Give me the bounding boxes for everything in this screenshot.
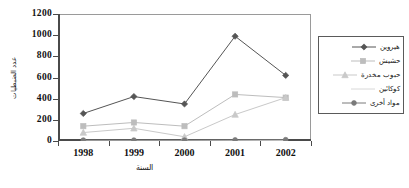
data-point-marker	[80, 110, 86, 116]
legend-label-4: كوكائين	[379, 86, 400, 93]
data-point-marker	[81, 124, 86, 129]
data-point-marker	[182, 124, 187, 129]
data-point-marker	[233, 92, 238, 97]
x-tick-mark	[159, 141, 160, 146]
data-point-marker	[132, 138, 137, 141]
legend-item-1[interactable]: هيروين	[322, 40, 400, 54]
legend-key-5	[341, 98, 367, 108]
y-tick-label: 1000	[0, 30, 52, 40]
y-tick-label: 600	[0, 73, 52, 83]
legend-item-2[interactable]: حشيش	[322, 54, 400, 68]
y-tick-label: 800	[0, 51, 52, 61]
series-line	[83, 94, 285, 126]
data-point-marker	[131, 120, 136, 125]
x-tick-mark	[58, 141, 59, 146]
data-point-marker	[361, 44, 367, 50]
x-axis-title: السنة	[0, 163, 409, 172]
legend: هيروينحشيشحبوب مخدرةكوكائينمواد أخرى	[318, 36, 404, 114]
data-point-marker	[233, 138, 238, 141]
data-point-marker	[283, 137, 288, 141]
legend-label-3: حبوب مخدرة	[361, 72, 400, 79]
chart-root: 020040060080010001200 199819992000200120…	[0, 0, 409, 188]
x-tick-label: 1998	[73, 148, 93, 158]
x-tick-label: 1999	[124, 148, 144, 158]
data-point-marker	[131, 93, 137, 99]
legend-key-1	[351, 42, 377, 52]
legend-item-3[interactable]: حبوب مخدرة	[322, 68, 400, 82]
data-point-marker	[182, 138, 187, 141]
legend-key-2	[350, 56, 376, 66]
x-tick-mark	[210, 141, 211, 146]
legend-key-3	[332, 70, 358, 80]
y-tick-label: 1200	[0, 9, 52, 19]
legend-label-5: مواد أخرى	[370, 100, 400, 107]
data-point-marker	[81, 138, 86, 141]
x-tick-label: 2002	[276, 148, 296, 158]
x-axis-title-text: السنة	[136, 163, 153, 172]
x-tick-label: 2001	[225, 148, 245, 158]
data-point-marker	[352, 101, 357, 106]
x-tick-mark	[260, 141, 261, 146]
series-1	[80, 33, 289, 116]
x-tick-mark	[109, 141, 110, 146]
series-canvas	[58, 14, 311, 141]
data-point-marker	[360, 58, 365, 63]
x-tick-mark	[311, 141, 312, 146]
series-2	[81, 92, 289, 129]
legend-label-1: هيروين	[380, 44, 400, 51]
y-tick-label: 400	[0, 94, 52, 104]
legend-item-4[interactable]: كوكائين	[322, 82, 400, 96]
legend-label-2: حشيش	[379, 58, 400, 65]
y-axis-title: عدد الضبطيات	[10, 57, 18, 99]
y-tick-label: 0	[0, 136, 52, 146]
x-tick-label: 2000	[175, 148, 195, 158]
y-tick-label: 200	[0, 115, 52, 125]
legend-key-4	[350, 84, 376, 94]
legend-item-5[interactable]: مواد أخرى	[322, 96, 400, 110]
